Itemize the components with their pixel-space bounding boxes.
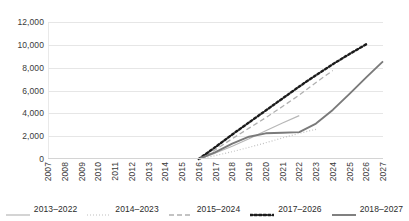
chart-legend: 2013–20222014–20232015–20242017–20262018…	[0, 200, 409, 218]
y-axis-tick-label: 8,000	[22, 63, 44, 73]
x-axis-tick-label: 2012	[127, 162, 137, 181]
legend-item[interactable]: 2018–2027	[332, 204, 403, 214]
y-axis-tick-label: 4,000	[22, 108, 44, 118]
legend-label: 2017–2026	[278, 204, 321, 214]
x-axis-tick-label: 2014	[160, 162, 170, 181]
series-layer	[48, 22, 383, 159]
x-axis-tick-label: 2015	[177, 162, 187, 181]
x-axis-tick-label: 2013	[144, 162, 154, 181]
x-axis-tick-label: 2024	[328, 162, 338, 181]
legend-item[interactable]: 2015–2024	[169, 204, 240, 214]
y-axis-tick-label: 10,000	[17, 40, 44, 50]
x-axis-tick-label: 2019	[244, 162, 254, 181]
x-axis-tick-label: 2007	[43, 162, 53, 181]
legend-item[interactable]: 2017–2026	[250, 204, 321, 214]
x-axis-tick-label: 2021	[278, 162, 288, 181]
y-axis-tick-label: 2,000	[22, 131, 44, 141]
series-line	[199, 129, 316, 159]
x-axis-tick-label: 2008	[60, 162, 70, 181]
y-axis-tick-label: 12,000	[17, 17, 44, 27]
line-chart: 02,0004,0006,0008,00010,00012,000 200720…	[0, 0, 409, 221]
x-axis-labels: 2007200820092010201120122013201420152016…	[48, 162, 383, 198]
zero-baseline	[48, 158, 383, 159]
legend-swatch	[87, 205, 111, 213]
y-axis-tick-label: 6,000	[22, 86, 44, 96]
legend-label: 2013–2022	[34, 204, 77, 214]
x-axis-tick-label: 2016	[194, 162, 204, 181]
x-axis-tick-label: 2026	[361, 162, 371, 181]
legend-swatch	[332, 205, 356, 213]
x-axis-tick-label: 2009	[77, 162, 87, 181]
x-axis-tick-label: 2027	[378, 162, 388, 181]
x-axis-tick-label: 2022	[294, 162, 304, 181]
series-line	[199, 61, 383, 159]
legend-label: 2015–2024	[197, 204, 240, 214]
legend-swatch	[169, 205, 193, 213]
x-axis-tick-label: 2018	[227, 162, 237, 181]
x-axis-tick-label: 2020	[261, 162, 271, 181]
legend-item[interactable]: 2014–2023	[87, 204, 158, 214]
legend-label: 2018–2027	[360, 204, 403, 214]
plot-area	[48, 22, 383, 159]
y-axis-labels: 02,0004,0006,0008,00010,00012,000	[0, 0, 44, 181]
x-axis-tick-label: 2025	[345, 162, 355, 181]
x-axis-tick-label: 2017	[211, 162, 221, 181]
legend-item[interactable]: 2013–2022	[6, 204, 77, 214]
x-axis-tick-label: 2010	[93, 162, 103, 181]
legend-swatch	[250, 205, 274, 213]
legend-swatch	[6, 205, 30, 213]
x-axis-tick-label: 2023	[311, 162, 321, 181]
x-axis-tick-label: 2011	[110, 162, 120, 181]
legend-label: 2014–2023	[115, 204, 158, 214]
